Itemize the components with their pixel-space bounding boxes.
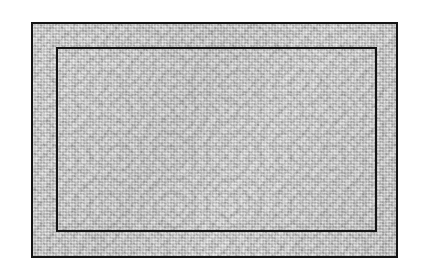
- outer-frame-rectangle: [31, 22, 398, 258]
- figure-canvas: [0, 0, 423, 275]
- inner-frame-rectangle: [56, 47, 377, 232]
- center-field: [58, 49, 375, 230]
